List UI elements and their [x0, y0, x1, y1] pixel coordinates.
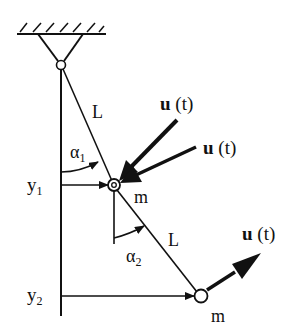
mass-2	[195, 290, 208, 303]
double-pendulum-diagram: L L α1 α2 y1 y2 m m u (t) u (t) u (t)	[0, 0, 297, 335]
force-label-u1: u (t)	[160, 93, 193, 115]
force-arrow-u1	[119, 120, 177, 181]
force-label-u3: u (t)	[242, 223, 275, 245]
force-arrow-u3	[207, 253, 261, 290]
pivot-joint	[57, 61, 66, 70]
y1-label: y1	[27, 174, 43, 198]
force-label-u2: u (t)	[203, 137, 236, 159]
link-2	[117, 190, 197, 292]
mass-1	[108, 179, 120, 191]
alpha1-label: α1	[70, 142, 85, 165]
pivot-support	[38, 34, 83, 61]
link1-length-label: L	[92, 102, 103, 122]
mass1-label: m	[134, 187, 148, 207]
alpha2-label: α2	[126, 246, 141, 269]
link2-length-label: L	[168, 230, 179, 250]
fixed-ceiling	[17, 23, 106, 34]
link-1	[63, 69, 112, 181]
angle-alpha2-arc	[114, 226, 144, 238]
y2-label: y2	[27, 284, 43, 308]
mass2-label: m	[211, 306, 225, 326]
